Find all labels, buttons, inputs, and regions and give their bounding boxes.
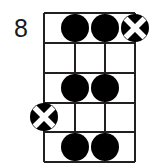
dot-marker-circle — [61, 14, 89, 42]
dot-marker-circle — [91, 14, 119, 42]
dot-fret3-string2 — [61, 74, 89, 102]
cross-fret4-string1 — [30, 103, 58, 131]
dot-marker-circle — [61, 74, 89, 102]
markers-group — [30, 14, 149, 161]
dot-marker-circle — [91, 133, 119, 161]
dot-fret5-string3 — [91, 133, 119, 161]
fretboard — [0, 0, 151, 167]
chord-diagram: 8 — [0, 0, 151, 167]
string-lines-group — [44, 13, 135, 162]
cross-fret1-string4 — [121, 14, 149, 42]
fret-lines-group — [44, 13, 135, 162]
dot-fret5-string2 — [61, 133, 89, 161]
dot-fret3-string3 — [91, 74, 119, 102]
dot-marker-circle — [91, 74, 119, 102]
dot-fret1-string2 — [61, 14, 89, 42]
dot-marker-circle — [61, 133, 89, 161]
dot-fret1-string3 — [91, 14, 119, 42]
